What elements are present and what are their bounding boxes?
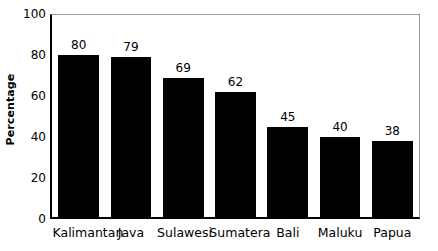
bar[interactable]: [111, 57, 152, 219]
y-tick-label: 60: [0, 89, 46, 103]
x-axis-category-label: Bali: [262, 222, 314, 244]
bars-layer: 80796962454038: [53, 14, 419, 219]
bar[interactable]: [320, 137, 361, 219]
bar-value-label: 40: [320, 120, 361, 134]
x-axis-category-label: Sumatera: [209, 222, 261, 244]
x-axis-category-label: Kalimantan: [53, 222, 105, 244]
y-axis-title: Percentage: [0, 0, 22, 219]
y-tick-label: 80: [0, 48, 46, 62]
y-tick-label: 40: [0, 130, 46, 144]
bar-value-label: 38: [372, 124, 413, 138]
bar[interactable]: [267, 127, 308, 219]
y-tick-label: 20: [0, 171, 46, 185]
bar-column[interactable]: 80: [58, 14, 99, 219]
bar[interactable]: [163, 78, 204, 219]
y-tick-label: 100: [0, 7, 46, 21]
y-tick-label: 0: [0, 212, 46, 226]
bar-value-label: 80: [58, 38, 99, 52]
x-axis-category-label: Papua: [366, 222, 418, 244]
bar-column[interactable]: 45: [267, 14, 308, 219]
x-axis-category-label: Java: [105, 222, 157, 244]
bar-value-label: 79: [111, 40, 152, 54]
x-axis-labels: KalimantanJavaSulawesiSumateraBaliMaluku…: [53, 222, 419, 248]
bar-column[interactable]: 69: [163, 14, 204, 219]
bar-column[interactable]: 62: [215, 14, 256, 219]
bar-value-label: 45: [267, 110, 308, 124]
bar-chart: Percentage 020406080100 80796962454038 K…: [0, 0, 438, 251]
bar[interactable]: [58, 55, 99, 219]
bar[interactable]: [372, 141, 413, 219]
bar-column[interactable]: 79: [111, 14, 152, 219]
bar-column[interactable]: 38: [372, 14, 413, 219]
bar-column[interactable]: 40: [320, 14, 361, 219]
x-axis-category-label: Sulawesi: [157, 222, 209, 244]
bar[interactable]: [215, 92, 256, 219]
bar-value-label: 69: [163, 61, 204, 75]
x-axis-category-label: Maluku: [314, 222, 366, 244]
bar-value-label: 62: [215, 75, 256, 89]
